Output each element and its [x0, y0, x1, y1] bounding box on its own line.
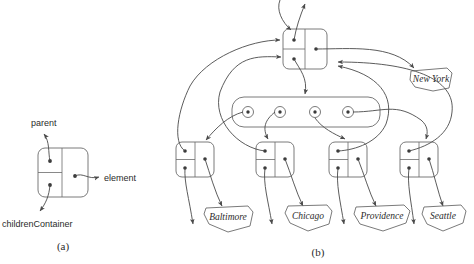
child-node-box-2: [329, 142, 367, 177]
label-seattle: Seattle: [430, 211, 456, 221]
container-cell-1: [275, 107, 286, 118]
seattle-shape: Seattle: [422, 205, 466, 231]
figure-root: parent childrenContainer element (a) New…: [0, 0, 474, 264]
label-chicago: Chicago: [292, 211, 324, 221]
root-children-to-container: [294, 59, 306, 94]
providence-shape: Providence: [354, 205, 410, 231]
child-1-children-arrow: [265, 168, 272, 224]
container-cell-2-to-child-2: [315, 118, 345, 139]
child-2-children-arrow: [337, 168, 344, 224]
incoming-edge-top: [279, 0, 291, 30]
label-children-container: childrenContainer: [2, 219, 73, 229]
label-baltimore: Baltimore: [209, 212, 247, 222]
baltimore-shape: Baltimore: [204, 206, 253, 232]
child-node-box-3: [400, 142, 438, 177]
child-1-parent-to-root: [219, 57, 281, 151]
container-cell-2: [310, 107, 321, 118]
panel-b-group: New York: [176, 0, 466, 259]
container-cell-3: [343, 107, 354, 118]
container-cell-0-to-child-0: [206, 112, 243, 140]
container-cell-0: [243, 107, 254, 118]
child-node-box-1: [256, 142, 294, 177]
panel-a-group: parent childrenContainer element (a): [2, 118, 137, 253]
child-3-element-to-seattle: [429, 159, 443, 206]
legend-node-box: [38, 148, 88, 197]
container-cell-3-to-child-3: [353, 109, 427, 139]
child-3-children-arrow: [408, 168, 414, 224]
label-element: element: [104, 173, 137, 183]
label-new-york: New York: [412, 74, 450, 84]
root-element-to-new-york: [316, 49, 414, 68]
child-0-children-arrow: [185, 168, 193, 224]
chicago-shape: Chicago: [285, 205, 332, 231]
parent-pointer-arrow: [44, 134, 50, 161]
child-0-element-to-baltimore: [205, 159, 222, 206]
caption-a: (a): [57, 240, 70, 253]
container-cell-1-to-child-1: [265, 112, 275, 139]
label-parent: parent: [31, 118, 57, 128]
label-providence: Providence: [360, 211, 404, 221]
caption-b: (b): [312, 246, 325, 259]
element-pointer-arrow: [75, 175, 99, 178]
children-container-pointer-arrow: [40, 185, 50, 211]
child-2-parent-to-root: [338, 66, 389, 151]
diagram-canvas: parent childrenContainer element (a) New…: [0, 0, 474, 264]
root-parent-arrow-up: [294, 4, 305, 40]
